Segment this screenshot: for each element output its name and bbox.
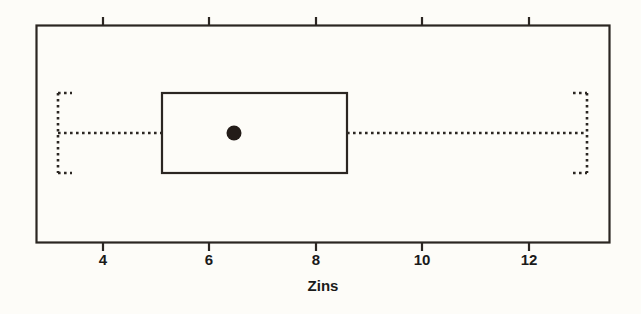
boxplot-canvas [0,0,641,314]
x-tick-label-6: 6 [205,252,213,267]
bottom-axis-ticks [103,243,529,252]
x-tick-label-12: 12 [521,252,538,267]
whiskers [58,93,587,173]
boxplot-figure: 4 6 8 10 12 Zins [0,0,641,314]
x-tick-label-10: 10 [414,252,431,267]
top-axis-ticks [103,17,529,26]
x-tick-label-4: 4 [99,252,107,267]
interquartile-box [162,93,347,173]
x-tick-label-8: 8 [312,252,320,267]
x-axis-title: Zins [308,278,339,293]
median-marker [227,126,242,141]
